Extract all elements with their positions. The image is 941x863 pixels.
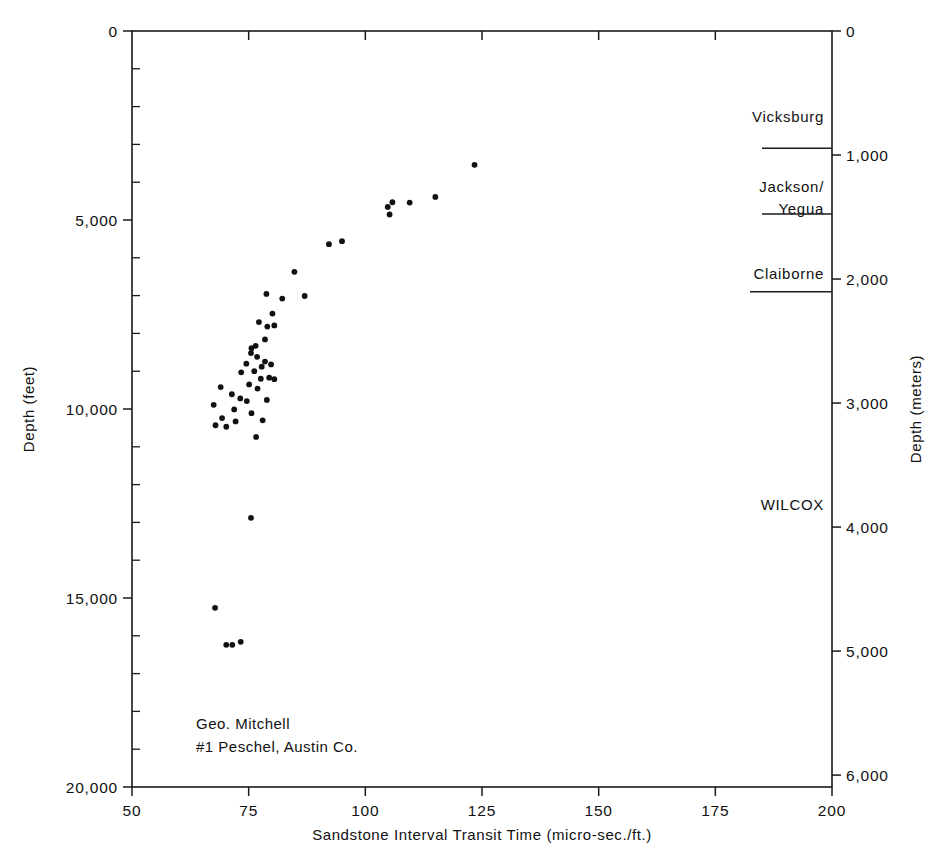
y2-axis-tick-labels: 01,0002,0003,0004,0005,0006,000 xyxy=(846,23,889,784)
formation-label-vicksburg: Vicksburg xyxy=(752,108,824,125)
data-point xyxy=(256,319,262,325)
y2-tick-label-3000: 3,000 xyxy=(846,395,889,412)
data-point xyxy=(212,605,218,611)
data-point xyxy=(326,241,332,247)
data-point xyxy=(251,368,257,374)
y2-tick-label-2000: 2,000 xyxy=(846,271,889,288)
x-axis-tick-labels: 5075100125150175200 xyxy=(123,802,847,819)
data-point xyxy=(264,291,270,297)
data-point xyxy=(266,375,272,381)
data-point xyxy=(246,382,252,388)
data-point xyxy=(258,376,264,382)
data-point xyxy=(213,422,219,428)
y-tick-label-5000: 5,000 xyxy=(75,212,118,229)
data-point xyxy=(254,354,260,360)
data-point xyxy=(219,415,225,421)
data-point xyxy=(211,402,217,408)
data-point xyxy=(229,642,235,648)
formation-label-wilcox: WILCOX xyxy=(761,496,824,513)
data-point xyxy=(271,376,277,382)
y2-tick-label-4000: 4,000 xyxy=(846,519,889,536)
data-point xyxy=(243,361,249,367)
x-axis-title: Sandstone Interval Transit Time (micro-s… xyxy=(312,826,652,843)
y-tick-label-15000: 15,000 xyxy=(66,590,118,607)
chart-figure: 5075100125150175200 05,00010,00015,00020… xyxy=(0,0,941,863)
data-point xyxy=(248,350,254,356)
data-points xyxy=(211,162,478,648)
data-point xyxy=(387,212,393,218)
data-point xyxy=(238,369,244,375)
annotation-line-2: #1 Peschel, Austin Co. xyxy=(196,738,358,755)
data-point xyxy=(223,642,229,648)
data-point xyxy=(339,238,345,244)
data-point xyxy=(218,384,224,390)
x-tick-label-75: 75 xyxy=(239,802,258,819)
data-point xyxy=(249,410,255,416)
data-point xyxy=(385,204,391,210)
data-point xyxy=(262,337,268,343)
formation-labels: VicksburgJackson/YeguaClaiborneWILCOX xyxy=(752,108,824,513)
x-axis-ticks-bottom xyxy=(132,787,832,796)
data-point xyxy=(472,162,478,168)
y-tick-label-20000: 20,000 xyxy=(66,779,118,796)
data-point xyxy=(249,345,255,351)
x-tick-label-175: 175 xyxy=(701,802,729,819)
data-point xyxy=(259,364,265,370)
data-point xyxy=(244,398,250,404)
y2-axis-title: Depth (meters) xyxy=(907,355,924,463)
y2-tick-label-1000: 1,000 xyxy=(846,147,889,164)
y-axis-ticks-right xyxy=(832,31,841,775)
data-point xyxy=(390,199,396,205)
y-axis-ticks-left xyxy=(123,31,132,787)
y-tick-label-10000: 10,000 xyxy=(66,401,118,418)
data-point xyxy=(255,386,261,392)
data-point xyxy=(264,324,270,330)
data-point xyxy=(248,515,254,521)
y2-tick-label-5000: 5,000 xyxy=(846,643,889,660)
data-point xyxy=(233,419,239,425)
y2-tick-label-6000: 6,000 xyxy=(846,767,889,784)
y2-tick-label-0: 0 xyxy=(846,23,855,40)
y-axis-title: Depth (feet) xyxy=(20,366,37,452)
x-tick-label-125: 125 xyxy=(468,802,496,819)
data-point xyxy=(260,417,266,423)
data-point xyxy=(262,359,268,365)
data-point xyxy=(229,391,235,397)
data-point xyxy=(270,311,276,317)
data-point xyxy=(237,396,243,402)
x-tick-label-150: 150 xyxy=(585,802,613,819)
data-point xyxy=(264,397,270,403)
data-point xyxy=(292,269,298,275)
x-tick-label-100: 100 xyxy=(351,802,379,819)
data-point xyxy=(407,200,413,206)
y-axis-tick-labels: 05,00010,00015,00020,000 xyxy=(66,23,118,796)
data-point xyxy=(231,406,237,412)
formation-label-claiborne: Claiborne xyxy=(753,265,824,282)
data-point xyxy=(279,296,285,302)
data-point xyxy=(238,639,244,645)
data-point xyxy=(271,323,277,329)
annotation-line-1: Geo. Mitchell xyxy=(196,715,290,732)
scatter-plot-svg: 5075100125150175200 05,00010,00015,00020… xyxy=(0,0,941,863)
formation-label-yegua: Yegua xyxy=(779,200,825,217)
formation-label-jackson: Jackson/ xyxy=(759,178,824,195)
data-point xyxy=(253,434,259,440)
y-axis-minor-ticks-left xyxy=(132,69,140,749)
x-tick-label-200: 200 xyxy=(818,802,846,819)
x-tick-label-50: 50 xyxy=(123,802,142,819)
data-point xyxy=(302,293,308,299)
data-point xyxy=(223,424,229,430)
x-axis-ticks-top xyxy=(249,31,716,40)
data-point xyxy=(432,194,438,200)
data-point xyxy=(268,362,274,368)
y-tick-label-0: 0 xyxy=(109,23,118,40)
